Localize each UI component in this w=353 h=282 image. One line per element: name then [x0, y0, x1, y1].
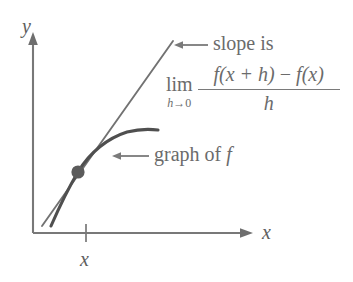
slope-is-arrow	[174, 41, 208, 49]
x-tick-label: x	[80, 249, 89, 269]
limit-operator-text: lim	[166, 74, 193, 94]
fraction-bar	[198, 89, 340, 90]
x-axis-arrowhead	[240, 228, 253, 238]
x-axis-label: x	[262, 222, 271, 242]
numerator-arg1: (x + h)	[219, 63, 275, 85]
numerator-arg2: (x)	[302, 63, 324, 85]
limit-subscript-arrow-icon: →	[173, 96, 185, 110]
derivative-definition-figure: y x x slope is graph of f lim h→0 f(x + …	[0, 0, 353, 282]
limit-expression: lim h→0 f(x + h) − f(x) h	[166, 63, 340, 115]
tangent-line	[42, 41, 173, 226]
y-axis-label: y	[22, 16, 31, 36]
fraction-denominator: h	[264, 92, 274, 115]
slope-is-label: slope is	[213, 33, 274, 53]
numerator-operator: −	[280, 63, 291, 85]
graph-of-f-function-symbol: f	[226, 143, 232, 165]
limit-subscript: h→0	[167, 97, 191, 109]
graph-of-f-label: graph of f	[154, 144, 232, 164]
fraction-numerator: f(x + h) − f(x)	[210, 63, 328, 86]
function-curve	[51, 129, 158, 226]
tangency-point-dot	[71, 165, 84, 178]
graph-of-f-arrow	[112, 152, 149, 160]
graph-of-f-text-part: graph of	[154, 143, 221, 165]
limit-operator: lim h→0	[166, 74, 193, 109]
figure-canvas	[0, 0, 353, 282]
limit-subscript-target: 0	[185, 96, 191, 110]
difference-quotient-fraction: f(x + h) − f(x) h	[198, 63, 340, 115]
